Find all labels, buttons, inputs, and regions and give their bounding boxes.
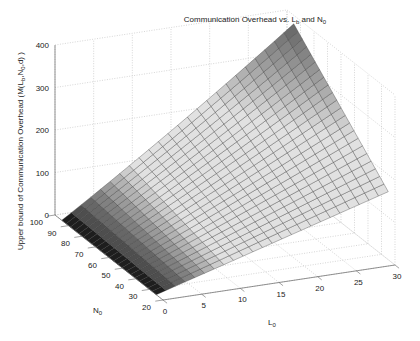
z-tick-label: 200 — [36, 126, 50, 135]
x-tick-label: 30 — [393, 272, 402, 281]
x-tick-label: 10 — [238, 295, 247, 304]
x-axis-label: L0 — [268, 318, 276, 328]
z-tick-label: 100 — [36, 169, 50, 178]
z-tick-label: 400 — [36, 41, 50, 50]
surface-mesh — [62, 24, 389, 295]
x-tick-label: 5 — [201, 301, 206, 310]
y-tick-label: 90 — [48, 229, 57, 238]
x-tick-label: 0 — [163, 307, 168, 316]
z-tick-label: 0 — [45, 211, 50, 220]
z-tick-label: 300 — [36, 84, 50, 93]
y-tick-label: 60 — [88, 261, 97, 270]
y-tick-label: 50 — [102, 271, 111, 280]
y-tick-label: 80 — [61, 239, 70, 248]
y-tick-label: 70 — [75, 250, 84, 259]
y-tick-label: 40 — [115, 282, 124, 291]
x-tick-label: 25 — [354, 278, 363, 287]
y-tick-label: 30 — [129, 292, 138, 301]
surface-plot: Communication Overhead vs. Lb and N0 Upp… — [0, 0, 420, 341]
x-tick-label: 20 — [315, 284, 324, 293]
chart-title: Communication Overhead vs. Lb and N0 — [184, 15, 327, 25]
y-axis-label: N0 — [93, 306, 103, 316]
y-tick-label: 100 — [30, 218, 44, 227]
z-axis-label: Upper bound of Communication Overhead (M… — [16, 52, 26, 250]
y-tick-label: 20 — [142, 303, 151, 312]
x-tick-label: 15 — [277, 290, 286, 299]
figure: Communication Overhead vs. Lb and N0 Upp… — [0, 0, 420, 341]
